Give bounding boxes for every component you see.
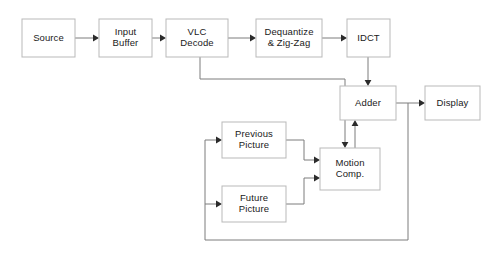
node-previous_picture[interactable]: PreviousPicture	[222, 122, 286, 158]
node-display[interactable]: Display	[425, 86, 480, 120]
node-layer: SourceInputBufferVLCDecodeDequantize& Zi…	[22, 19, 480, 222]
arrowhead-icon	[216, 201, 222, 208]
node-label-motion_comp: Comp.	[336, 168, 364, 179]
edge-previous-picture-to-motion-comp	[286, 140, 320, 163]
node-label-dequantize: & Zig-Zag	[268, 37, 311, 48]
edge-input-buffer-to-vlc-decode	[152, 35, 166, 42]
arrowhead-icon	[250, 35, 256, 42]
arrowhead-icon	[160, 35, 166, 42]
arrowhead-icon	[314, 157, 320, 164]
node-source[interactable]: Source	[22, 19, 75, 57]
node-label-vlc_decode: Decode	[180, 37, 213, 48]
mpeg-decoder-diagram: SourceInputBufferVLCDecodeDequantize& Zi…	[0, 0, 490, 254]
edge-motion-comp-to-adder	[352, 120, 359, 148]
node-label-source: Source	[33, 32, 64, 43]
arrowhead-icon	[341, 35, 347, 42]
arrowhead-icon	[342, 142, 349, 148]
node-label-input_buffer: Buffer	[113, 37, 139, 48]
edge-idct-to-adder	[365, 57, 372, 86]
node-label-future_picture: Future	[240, 192, 268, 203]
node-label-vlc_decode: VLC	[188, 26, 207, 37]
edge-vlc-decode-to-dequantize	[228, 35, 256, 42]
node-idct[interactable]: IDCT	[347, 19, 390, 57]
node-input_buffer[interactable]: InputBuffer	[99, 19, 152, 57]
edge-future-picture-to-motion-comp	[286, 175, 320, 204]
block-diagram-canvas: SourceInputBufferVLCDecodeDequantize& Zi…	[0, 0, 490, 254]
node-label-adder: Adder	[355, 97, 381, 108]
arrowhead-icon	[365, 80, 372, 86]
arrowhead-icon	[419, 100, 425, 107]
node-vlc_decode[interactable]: VLCDecode	[166, 19, 228, 57]
arrowhead-icon	[216, 137, 222, 144]
node-adder[interactable]: Adder	[340, 86, 396, 120]
arrowhead-icon	[352, 120, 359, 126]
arrowhead-icon	[93, 35, 99, 42]
edge-source-to-input-buffer	[75, 35, 99, 42]
edge-adder-to-display	[396, 100, 425, 107]
node-label-previous_picture: Previous	[235, 128, 273, 139]
edge-dequantize-to-idct	[322, 35, 347, 42]
node-motion_comp[interactable]: MotionComp.	[320, 148, 380, 190]
node-label-idct: IDCT	[357, 32, 380, 43]
node-label-motion_comp: Motion	[335, 157, 364, 168]
node-dequantize[interactable]: Dequantize& Zig-Zag	[256, 19, 322, 57]
edge-adder-feedback-to-future-picture	[205, 201, 222, 208]
node-label-future_picture: Picture	[239, 203, 269, 214]
node-label-display: Display	[437, 97, 469, 108]
node-future_picture[interactable]: FuturePicture	[222, 186, 286, 222]
arrowhead-icon	[314, 175, 320, 182]
node-label-input_buffer: Input	[115, 26, 137, 37]
node-label-dequantize: Dequantize	[264, 26, 313, 37]
node-label-previous_picture: Picture	[239, 139, 269, 150]
